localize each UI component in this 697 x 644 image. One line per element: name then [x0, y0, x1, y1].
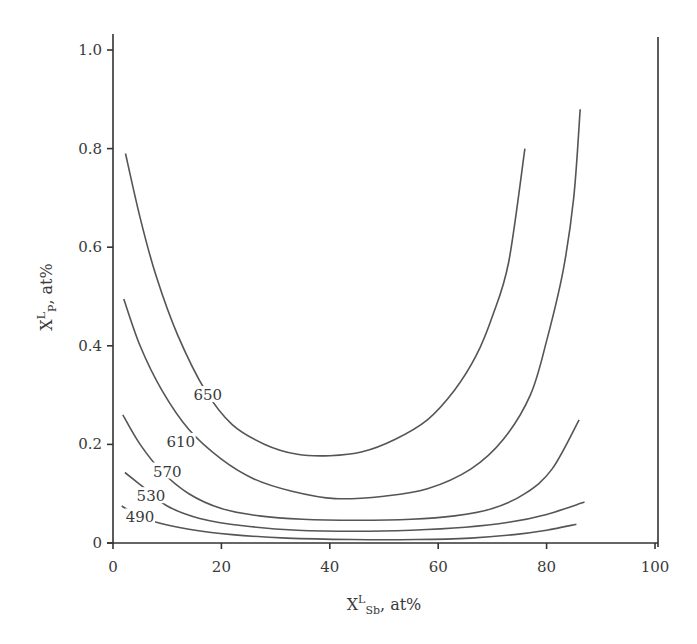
y-tick-label: 0.2: [78, 435, 102, 453]
contour-label-530: 530: [137, 487, 166, 505]
x-tick-label: 20: [212, 558, 231, 576]
contour-label-610: 610: [166, 433, 195, 451]
contour-label-650: 650: [194, 386, 223, 404]
contour-labels: 650610570530490: [125, 386, 223, 526]
x-tick-label: 80: [537, 558, 556, 576]
x-tick-label: 0: [108, 558, 118, 576]
y-tick-label: 0: [92, 534, 102, 552]
y-axis-label: XLP, at%: [35, 263, 59, 330]
contour-curves: [122, 109, 585, 540]
contour-chart: 02040608010000.20.40.60.81.0 65061057053…: [0, 0, 697, 644]
x-tick-label: 100: [641, 558, 670, 576]
y-tick-label: 0.6: [78, 238, 102, 256]
x-tick-label: 40: [320, 558, 339, 576]
x-tick-label: 60: [429, 558, 448, 576]
y-tick-label: 0.4: [78, 337, 102, 355]
y-tick-label: 0.8: [78, 140, 102, 158]
contour-530: [125, 473, 585, 532]
contour-label-570: 570: [153, 463, 182, 481]
contour-650: [126, 149, 525, 456]
axes: 02040608010000.20.40.60.81.0: [78, 34, 669, 576]
contour-label-490: 490: [126, 508, 155, 526]
x-axis-label: XLSb, at%: [347, 593, 422, 617]
y-tick-label: 1.0: [78, 41, 102, 59]
